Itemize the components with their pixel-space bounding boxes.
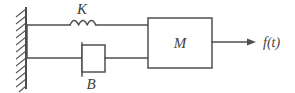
mass-label: M (173, 35, 188, 51)
fixed-wall (16, 7, 27, 92)
damper-element: B (27, 43, 148, 92)
damper-cylinder-body (82, 45, 105, 72)
force-arrow: f(t) (212, 35, 280, 51)
spring-element: K (27, 1, 148, 25)
wall-hatching (16, 9, 26, 92)
force-arrow-head (247, 38, 256, 45)
spring-coil-path (70, 21, 96, 26)
diagram-canvas: K B M f(t) (0, 0, 295, 93)
spring-label: K (76, 1, 88, 17)
mass-spring-damper-diagram: K B M f(t) (0, 0, 295, 93)
force-label: f(t) (263, 35, 280, 51)
mass-block: M (148, 18, 212, 68)
damper-label: B (86, 76, 95, 92)
